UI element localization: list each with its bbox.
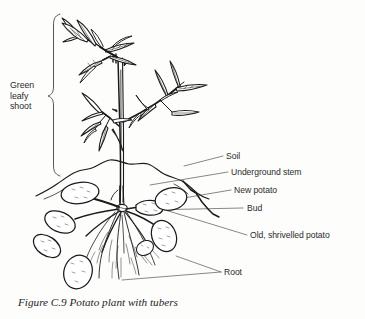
tuber-upper-left — [60, 180, 101, 206]
leaf-cluster-upper-left — [62, 18, 136, 83]
main-stem — [118, 58, 124, 202]
label-green-leafy-shoot-line1: Green — [10, 80, 34, 91]
label-root: Root — [224, 267, 242, 277]
underground-stem — [111, 186, 124, 206]
bracket-green-leafy-shoot — [48, 14, 60, 176]
figure-potato-plant: Green leafy shoot Soil Underground stem … — [0, 0, 365, 319]
leader-lines — [122, 156, 247, 280]
label-bud: Bud — [247, 203, 262, 213]
label-soil: Soil — [226, 151, 240, 161]
leader-underground-stem — [150, 172, 228, 185]
leader-root-lower — [122, 272, 221, 280]
label-old-shrivelled-potato: Old, shrivelled potato — [250, 230, 330, 240]
label-underground-stem: Underground stem — [231, 167, 301, 177]
tubers — [29, 180, 189, 293]
leaf-cluster-right — [123, 61, 207, 128]
label-green-leafy-shoot: Green leafy shoot — [10, 80, 34, 112]
leader-root-upper — [176, 256, 221, 272]
soil-right-edge — [183, 181, 219, 217]
tuber-bottom — [59, 252, 96, 293]
label-green-leafy-shoot-line2: leafy — [10, 91, 34, 102]
tuber-lower-left — [29, 230, 64, 263]
leader-soil — [184, 156, 223, 166]
tuber-left — [41, 206, 78, 237]
label-new-potato: New potato — [234, 185, 277, 195]
potato-plant-drawing — [0, 0, 365, 319]
figure-caption: Figure C.9 Potato plant with tubers — [18, 296, 178, 308]
label-green-leafy-shoot-line3: shoot — [10, 101, 34, 112]
